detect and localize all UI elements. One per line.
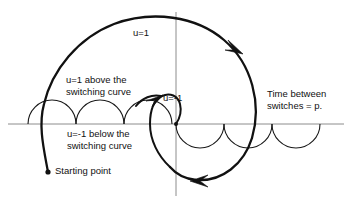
starting-point-dot (45, 169, 50, 174)
switching-semicircle-above-3 (124, 100, 172, 124)
label-u-equals-minus-1-center: u=-1 (163, 92, 182, 104)
switching-semicircle-above-1 (28, 100, 76, 124)
trajectory-group (41, 17, 255, 187)
switching-semicircle-below-2 (224, 124, 272, 148)
label-starting-point: Starting point (55, 165, 111, 177)
label-u-equals-1-above-switching-curve: u=1 above the switching curve (66, 74, 131, 97)
trajectory-outer-spiral (41, 17, 255, 181)
phase-plane-figure: u=1 u=1 above the switching curve u=-1 T… (0, 0, 352, 200)
switching-semicircle-above-2 (76, 100, 124, 124)
switching-curve-right (176, 124, 320, 148)
label-u-equals-1-top: u=1 (133, 27, 149, 39)
switching-semicircle-below-3 (272, 124, 320, 148)
switching-semicircle-below-1 (176, 124, 224, 148)
origin-dot (174, 122, 178, 126)
label-time-between-switches: Time between switches = p. (267, 88, 326, 111)
label-u-equals-minus-1-below-switching-curve: u=-1 below the switching curve (67, 128, 132, 151)
